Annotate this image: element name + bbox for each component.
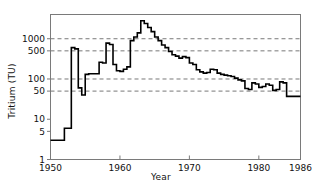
x-tick-label-1980: 1980 xyxy=(247,163,270,173)
y-axis-title: Tritium (TU) xyxy=(7,53,17,129)
tritium-time-series-figure: 1510501005001000 19501960197019801986 Tr… xyxy=(0,0,322,190)
y-tick-label-500: 500 xyxy=(28,46,45,56)
x-tick-label-1950: 1950 xyxy=(39,163,62,173)
y-tick-label-100: 100 xyxy=(28,74,45,84)
y-tick-label-5: 5 xyxy=(39,127,45,137)
y-tick-label-50: 50 xyxy=(34,86,46,96)
x-tick-label-1960: 1960 xyxy=(108,163,131,173)
y-tick-label-10: 10 xyxy=(34,114,46,124)
x-tick-label-1970: 1970 xyxy=(178,163,201,173)
x-axis-title: Year xyxy=(0,172,322,182)
chart-canvas: 1510501005001000 19501960197019801986 xyxy=(0,0,322,190)
y-tick-label-1000: 1000 xyxy=(22,34,45,44)
x-tick-label-1986: 1986 xyxy=(289,163,312,173)
figure-background xyxy=(0,0,322,190)
